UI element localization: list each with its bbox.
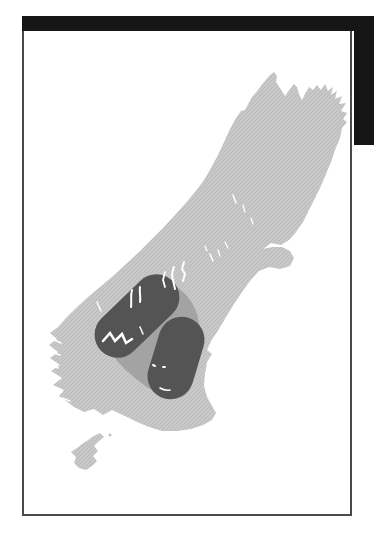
offshore-islet	[109, 434, 112, 437]
water-feature-mark	[153, 365, 155, 366]
water-feature-mark	[51, 376, 60, 379]
water-feature-mark	[54, 388, 62, 392]
stewart-island	[71, 433, 104, 470]
south-island-landmass	[49, 72, 347, 431]
top-black-bar	[22, 16, 374, 31]
scanned-page	[0, 0, 374, 546]
distribution-map	[0, 0, 374, 546]
water-feature-mark	[140, 287, 141, 302]
water-feature-mark	[131, 290, 132, 307]
right-black-block	[354, 31, 374, 145]
water-feature-mark	[49, 364, 58, 368]
